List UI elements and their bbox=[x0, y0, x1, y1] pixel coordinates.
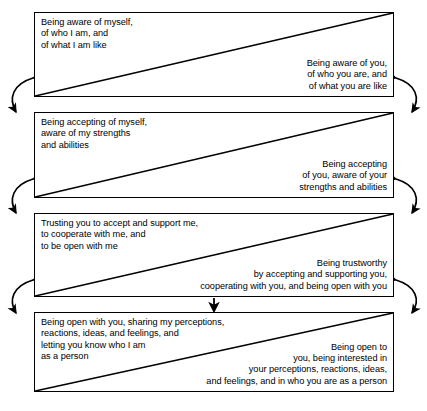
left-link-1-2 bbox=[12, 78, 33, 112]
panel-awareness-self-text: Being aware of myself, of who I am, and … bbox=[41, 17, 133, 51]
panel-openness-self-text: Being open with you, sharing my percepti… bbox=[41, 317, 224, 362]
left-link-3-4 bbox=[12, 280, 33, 313]
panel-awareness-other-text: Being aware of you, of who you are, and … bbox=[307, 58, 387, 92]
panel-openness: Being open with you, sharing my percepti… bbox=[34, 312, 394, 392]
panel-trust-other-text: Being trustworthy by accepting and suppo… bbox=[200, 258, 387, 292]
diagram-canvas: Being aware of myself, of who I am, and … bbox=[0, 0, 427, 411]
panel-openness-other-text: Being open to you, being interested in y… bbox=[206, 342, 387, 387]
left-link-2-3 bbox=[12, 179, 33, 213]
right-link-1-2 bbox=[396, 78, 416, 112]
panel-acceptance-self-text: Being accepting of myself, aware of my s… bbox=[41, 117, 147, 151]
panel-awareness: Being aware of myself, of who I am, and … bbox=[34, 12, 394, 97]
panel-acceptance: Being accepting of myself, aware of my s… bbox=[34, 112, 394, 198]
panel-acceptance-other-text: Being accepting of you, aware of your st… bbox=[299, 159, 387, 193]
right-link-3-4 bbox=[396, 280, 416, 313]
panel-trust-self-text: Trusting you to accept and support me, t… bbox=[41, 218, 198, 252]
right-link-2-3 bbox=[396, 179, 416, 213]
panel-trust: Trusting you to accept and support me, t… bbox=[34, 213, 394, 297]
